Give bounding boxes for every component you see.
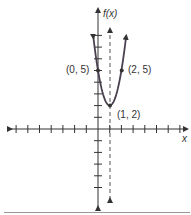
- y-axis-label: f(x): [103, 8, 117, 19]
- x-axis-label: x: [181, 133, 188, 144]
- point-label-2-5: (2, 5): [128, 64, 151, 75]
- point-2-5: [120, 69, 124, 73]
- vertex-label: (1, 2): [117, 109, 140, 120]
- vertex-point: [108, 104, 112, 108]
- point-0-5: [96, 69, 100, 73]
- parabola-graph: f(x) x (0, 5) (2, 5) (1, 2): [0, 0, 191, 215]
- point-label-0-5: (0, 5): [66, 64, 89, 75]
